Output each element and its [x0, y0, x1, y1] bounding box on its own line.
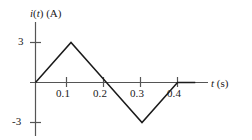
y-axis-title-unit: ) (A)	[40, 7, 62, 19]
waveform-plot	[0, 0, 252, 140]
x-tick-label-0-4: 0.4	[167, 88, 181, 99]
y-tick-label-minus-3: -3	[12, 116, 21, 127]
x-tick-label-0-1: 0.1	[56, 88, 70, 99]
y-tick-label-3: 3	[18, 36, 24, 47]
x-tick-label-0-3: 0.3	[130, 88, 144, 99]
y-axis-title: i(t) (A)	[30, 8, 61, 19]
triangular-waveform-figure: i(t) (A) t (s) 3 -3 0.1 0.2 0.3 0.4	[0, 0, 252, 140]
x-tick-label-0-2: 0.2	[93, 88, 107, 99]
x-axis-title: t (s)	[211, 78, 228, 89]
x-axis-title-unit-text: (s)	[217, 77, 229, 89]
